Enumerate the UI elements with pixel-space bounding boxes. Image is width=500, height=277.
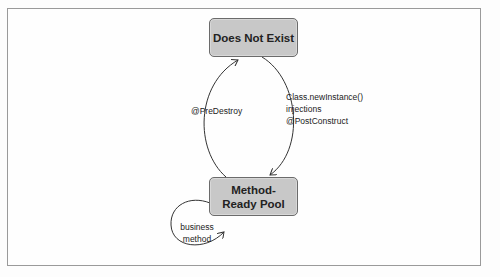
label-business-method: business method	[179, 221, 215, 245]
label-create-transition: Class.newInstance() injections @PostCons…	[286, 91, 363, 127]
arrow-destroy	[204, 60, 238, 177]
label-destroy-transition: @PreDestroy	[191, 105, 242, 117]
state-label: Method-Ready Pool	[219, 183, 289, 211]
state-does-not-exist: Does Not Exist	[209, 18, 298, 57]
state-label: Does Not Exist	[213, 31, 294, 45]
state-method-ready-pool: Method-Ready Pool	[209, 177, 298, 216]
